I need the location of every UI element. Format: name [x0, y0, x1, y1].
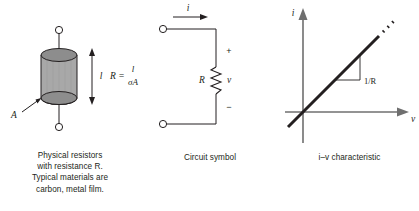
current-arrowhead: [200, 14, 208, 20]
caption-line: Circuit symbol: [140, 152, 280, 163]
formula-numerator: l: [132, 64, 135, 74]
polarity-minus-label: −: [226, 102, 231, 112]
slope-label: 1/R: [364, 76, 377, 86]
iv-characteristic-chart: i v 1/R: [280, 0, 419, 150]
terminal-bottom-circle: [159, 120, 166, 127]
terminal-top-circle: [159, 25, 166, 32]
caption-iv-characteristic: i–v characteristic: [280, 152, 419, 163]
formula-denominator: σA: [128, 77, 138, 87]
formula-lhs: R =: [109, 71, 125, 81]
panel-circuit-symbol: i R v + − Circuit symbol: [140, 0, 280, 211]
caption-line: Typical materials are: [0, 172, 140, 183]
cylinder-top-face: [41, 49, 77, 62]
current-label: i: [187, 3, 190, 13]
y-axis-arrowhead: [299, 8, 308, 20]
area-leader-arrowhead: [36, 98, 42, 104]
caption-circuit-symbol: Circuit symbol: [140, 152, 280, 163]
cylinder-bottom-face: [41, 92, 77, 105]
resistor-zigzag: [211, 67, 221, 94]
iv-curve-dotted-extension: [383, 18, 397, 32]
x-axis-label: v: [411, 114, 416, 124]
area-label: A: [10, 110, 17, 120]
circuit-symbol-drawing: i R v + −: [140, 0, 280, 150]
resistor-figure: A l R = l σA Physical resistors with res…: [0, 0, 419, 211]
panel-physical-resistor: A l R = l σA Physical resistors with res…: [0, 0, 140, 211]
length-arrowhead-top: [89, 48, 95, 56]
y-axis-label: i: [292, 8, 295, 18]
top-terminal-circle: [55, 26, 62, 33]
length-label: l: [100, 71, 103, 81]
caption-line: carbon, metal film.: [0, 184, 140, 195]
panel-iv-characteristic: i v 1/R i–v characteristic: [280, 0, 419, 211]
resistance-label: R: [198, 75, 205, 85]
voltage-label: v: [227, 75, 232, 85]
polarity-plus-label: +: [226, 46, 231, 56]
length-arrowhead-bottom: [89, 97, 95, 105]
physical-resistor-drawing: A l R = l σA: [0, 0, 140, 150]
caption-line: i–v characteristic: [280, 152, 419, 163]
caption-line: Physical resistors: [0, 150, 140, 161]
x-axis-arrowhead: [397, 108, 409, 117]
caption-line: with resistance R.: [0, 161, 140, 172]
caption-physical-resistor: Physical resistors with resistance R. Ty…: [0, 150, 140, 195]
bottom-terminal-circle: [55, 123, 62, 130]
